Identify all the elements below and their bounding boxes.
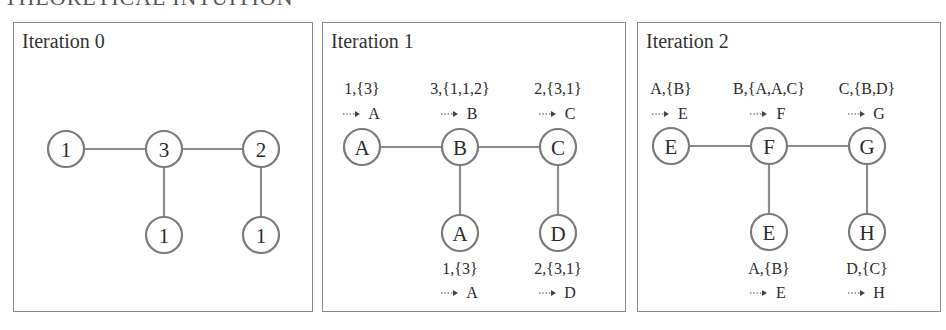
svg-text:G: G <box>859 135 874 159</box>
graph-node: 3 <box>146 131 182 167</box>
svg-text:A,{B}: A,{B} <box>650 80 692 97</box>
graph-node: C <box>540 129 576 165</box>
svg-text:A: A <box>466 284 478 301</box>
graph-node: F <box>751 128 787 164</box>
section-heading: THEORETICAL INTUITION <box>4 0 294 11</box>
graph-node: D <box>540 215 576 251</box>
svg-text:B: B <box>467 105 478 122</box>
svg-text:1: 1 <box>256 224 267 248</box>
svg-text:E: E <box>776 284 786 301</box>
svg-text:E: E <box>678 105 688 122</box>
svg-text:2: 2 <box>256 138 267 162</box>
svg-text:B: B <box>453 136 467 160</box>
svg-text:A: A <box>452 222 468 246</box>
node-message: D,{C} H <box>846 260 888 301</box>
graph-iteration-1: A B C A D 1,{3} A 3,{1,1,2} B 2,{3,1} C <box>323 23 627 313</box>
node-message: 1,{3} A <box>343 80 380 122</box>
node-message: A,{B} E <box>748 260 790 301</box>
svg-text:1,{3}: 1,{3} <box>442 260 477 277</box>
panel-iteration-2: Iteration 2 E F G E H A,{B} E B,{A,A, <box>637 22 941 312</box>
svg-text:1,{3}: 1,{3} <box>344 80 379 97</box>
svg-text:C: C <box>551 136 565 160</box>
svg-text:B,{A,A,C}: B,{A,A,C} <box>733 80 805 97</box>
graph-node: A <box>442 215 478 251</box>
svg-text:F: F <box>777 105 786 122</box>
svg-text:D: D <box>550 222 565 246</box>
svg-text:1: 1 <box>61 138 72 162</box>
dotted-arrow-icon <box>750 111 767 117</box>
graph-node: 1 <box>243 217 279 253</box>
svg-text:F: F <box>763 135 775 159</box>
graph-node: 1 <box>146 217 182 253</box>
svg-text:A,{B}: A,{B} <box>748 260 790 277</box>
dotted-arrow-icon <box>750 290 767 296</box>
svg-text:A: A <box>354 136 370 160</box>
svg-text:1: 1 <box>159 224 170 248</box>
dotted-arrow-icon <box>343 111 360 117</box>
node-message: 1,{3} A <box>441 260 478 301</box>
graph-iteration-0: 1 3 2 1 1 <box>14 23 314 313</box>
svg-text:2,{3,1}: 2,{3,1} <box>534 80 581 97</box>
dotted-arrow-icon <box>539 290 556 296</box>
svg-text:2,{3,1}: 2,{3,1} <box>534 260 581 277</box>
dotted-arrow-icon <box>539 111 556 117</box>
node-message: B,{A,A,C} F <box>733 80 805 122</box>
dotted-arrow-icon <box>848 290 865 296</box>
svg-text:C: C <box>565 105 576 122</box>
node-message: 2,{3,1} D <box>534 260 581 301</box>
graph-node: H <box>849 214 885 250</box>
svg-text:3: 3 <box>159 138 170 162</box>
node-message: 3,{1,1,2} B <box>430 80 489 122</box>
node-message: C,{B,D} G <box>839 80 895 122</box>
svg-text:E: E <box>665 135 678 159</box>
panel-iteration-0: Iteration 0 1 3 2 1 1 <box>13 22 313 312</box>
graph-node: 2 <box>243 131 279 167</box>
dotted-arrow-icon <box>441 111 458 117</box>
svg-text:D,{C}: D,{C} <box>846 260 888 277</box>
svg-text:H: H <box>859 221 874 245</box>
graph-iteration-2: E F G E H A,{B} E B,{A,A,C} F C,{B,D} G … <box>638 23 942 313</box>
node-message: A,{B} E <box>650 80 692 122</box>
dotted-arrow-icon <box>652 111 669 117</box>
svg-text:E: E <box>763 221 776 245</box>
graph-node: G <box>849 128 885 164</box>
svg-text:H: H <box>873 284 885 301</box>
dotted-arrow-icon <box>441 290 458 296</box>
graph-node: 1 <box>48 131 84 167</box>
svg-text:C,{B,D}: C,{B,D} <box>839 80 895 97</box>
svg-text:G: G <box>873 105 885 122</box>
svg-text:D: D <box>564 284 576 301</box>
svg-text:A: A <box>368 105 380 122</box>
graph-node: B <box>442 129 478 165</box>
graph-node: E <box>751 214 787 250</box>
panel-iteration-1: Iteration 1 A B C A D 1,{3} A <box>322 22 626 312</box>
graph-node: E <box>653 128 689 164</box>
svg-text:3,{1,1,2}: 3,{1,1,2} <box>430 80 489 97</box>
dotted-arrow-icon <box>848 111 865 117</box>
node-message: 2,{3,1} C <box>534 80 581 122</box>
graph-node: A <box>344 129 380 165</box>
